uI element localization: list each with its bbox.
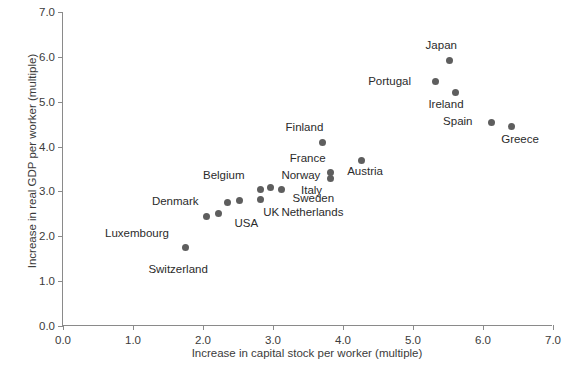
- y-tick-label: 5.0: [39, 96, 55, 108]
- data-point-label: Denmark: [152, 196, 199, 208]
- data-point: [432, 78, 439, 85]
- data-point: [452, 89, 459, 96]
- x-tick-label: 4.0: [335, 334, 351, 346]
- y-tick-mark: [58, 102, 63, 103]
- data-point: [319, 139, 326, 146]
- data-point: [446, 57, 453, 64]
- data-point-label: Switzerland: [148, 264, 207, 276]
- data-point: [358, 157, 365, 164]
- data-point-label: Greece: [501, 134, 539, 146]
- x-tick-mark: [203, 325, 204, 330]
- data-point-label: Japan: [426, 40, 457, 52]
- y-axis-title: Increase in real GDP per worker (multipl…: [26, 41, 38, 281]
- plot-area: 0.01.02.03.04.05.06.07.0 0.01.02.03.04.0…: [62, 12, 552, 326]
- y-tick-mark: [58, 147, 63, 148]
- data-point-label: Italy: [301, 185, 322, 197]
- y-tick-label: 3.0: [39, 185, 55, 197]
- data-point: [224, 199, 231, 206]
- x-axis-title: Increase in capital stock per worker (mu…: [62, 347, 552, 359]
- y-tick-label: 4.0: [39, 141, 55, 153]
- data-point-label: Belgium: [203, 170, 245, 182]
- y-tick-mark: [58, 236, 63, 237]
- data-point: [267, 184, 274, 191]
- data-point: [278, 186, 285, 193]
- data-point: [257, 186, 264, 193]
- x-tick-mark: [133, 325, 134, 330]
- data-point-label: UK: [263, 207, 279, 219]
- data-point: [508, 123, 515, 130]
- data-point: [215, 210, 222, 217]
- data-point-label: Portugal: [368, 76, 411, 88]
- data-point: [327, 175, 334, 182]
- data-point: [488, 119, 495, 126]
- data-point: [257, 196, 264, 203]
- data-point: [182, 244, 189, 251]
- x-tick-mark: [553, 325, 554, 330]
- x-tick-mark: [273, 325, 274, 330]
- data-point-label: Austria: [347, 166, 383, 178]
- x-tick-mark: [483, 325, 484, 330]
- data-point-label: Ireland: [428, 99, 463, 111]
- x-tick-label: 1.0: [125, 334, 141, 346]
- x-tick-label: 6.0: [475, 334, 491, 346]
- x-tick-label: 5.0: [405, 334, 421, 346]
- x-tick-label: 0.0: [55, 334, 71, 346]
- y-tick-label: 1.0: [39, 275, 55, 287]
- scatter-chart-figure: Increase in real GDP per worker (multipl…: [0, 0, 579, 366]
- data-point-label: Luxembourg: [105, 228, 169, 240]
- data-point-label: Finland: [286, 122, 324, 134]
- y-tick-mark: [58, 281, 63, 282]
- x-tick-label: 7.0: [545, 334, 561, 346]
- data-point-label: USA: [235, 218, 259, 230]
- y-tick-label: 0.0: [39, 320, 55, 332]
- data-point-label: Netherlands: [281, 207, 343, 219]
- y-tick-label: 6.0: [39, 51, 55, 63]
- y-tick-mark: [58, 191, 63, 192]
- data-point-label: Spain: [443, 116, 472, 128]
- y-tick-mark: [58, 12, 63, 13]
- x-tick-label: 2.0: [195, 334, 211, 346]
- x-tick-mark: [63, 325, 64, 330]
- y-tick-label: 7.0: [39, 6, 55, 18]
- y-tick-label: 2.0: [39, 230, 55, 242]
- x-tick-label: 3.0: [265, 334, 281, 346]
- x-tick-mark: [343, 325, 344, 330]
- data-point-label: France: [290, 153, 326, 165]
- data-point-label: Norway: [281, 170, 320, 182]
- data-point: [203, 213, 210, 220]
- x-tick-mark: [413, 325, 414, 330]
- data-point: [236, 197, 243, 204]
- y-tick-mark: [58, 57, 63, 58]
